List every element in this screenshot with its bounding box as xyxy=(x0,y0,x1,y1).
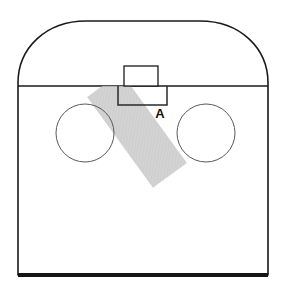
figure-root: A xyxy=(0,0,284,285)
callout-label-a: A xyxy=(155,106,165,121)
upper-tab-rectangle xyxy=(124,66,158,86)
technical-drawing-canvas: A xyxy=(0,0,284,285)
